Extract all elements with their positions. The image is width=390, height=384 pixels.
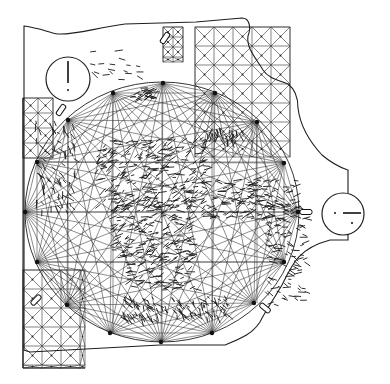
rhumb-line <box>161 163 284 342</box>
portolan-chart <box>0 0 390 384</box>
wind-rose-node <box>282 161 286 165</box>
wind-rose-node <box>210 331 214 335</box>
rhumb-line <box>37 262 110 333</box>
wind-rose-node <box>111 91 115 95</box>
rhumb-line <box>67 303 254 305</box>
wind-rose-node <box>65 303 69 307</box>
grid-west <box>23 98 53 158</box>
rhumb-line <box>25 122 257 212</box>
rhumb-line <box>68 120 254 303</box>
rhumb-line <box>37 93 113 162</box>
cartouche-glyph <box>300 210 312 215</box>
cartouche-glyph <box>30 294 42 306</box>
wind-rose-node <box>108 331 112 335</box>
rhumb-line <box>25 162 37 212</box>
scale-circle-east <box>322 193 364 235</box>
wind-rose-node <box>161 81 165 85</box>
wind-rose-node <box>23 210 27 214</box>
rhumb-line <box>25 212 37 262</box>
wind-rose-node <box>159 340 163 344</box>
wind-rose-node <box>252 301 256 305</box>
rhumb-line <box>161 333 212 342</box>
scale-circle-northwest <box>46 57 90 101</box>
rhumb-line <box>163 83 284 262</box>
coastline-hatching <box>90 50 143 80</box>
wind-rose-node <box>213 91 217 95</box>
wind-rose-node <box>66 118 70 122</box>
wind-rose-node <box>282 260 286 264</box>
wind-rose-node <box>255 120 259 124</box>
wind-rose-node <box>35 160 39 164</box>
rhumb-line <box>67 93 113 305</box>
cartouche-glyph <box>56 104 67 117</box>
wind-rose-node <box>35 260 39 264</box>
